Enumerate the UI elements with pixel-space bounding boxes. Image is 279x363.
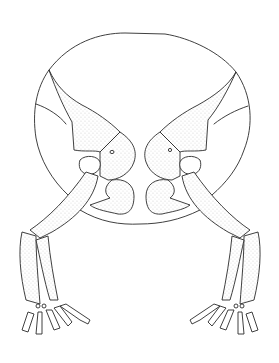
left-ilium	[49, 70, 120, 152]
right-acetabulum-foramen	[168, 148, 171, 151]
left-femur	[30, 172, 98, 238]
skeleton-illustration	[0, 0, 279, 363]
right-femur	[182, 172, 250, 238]
left-acetabulum-foramen	[110, 150, 114, 153]
right-digits	[190, 304, 258, 334]
right-femur-head	[180, 156, 201, 174]
body-outline-lower	[80, 210, 200, 224]
right-ilium	[160, 72, 236, 152]
illustration-svg	[0, 0, 279, 363]
right-ischium	[146, 180, 190, 215]
left-tarsal-1	[36, 304, 40, 308]
right-tarsal-2	[240, 304, 244, 308]
left-ilium-ridge	[36, 104, 66, 124]
left-femur-head	[79, 156, 100, 174]
left-ischium	[90, 180, 134, 215]
right-tarsal-1	[234, 304, 238, 308]
left-digits	[22, 304, 90, 334]
right-ilium-ridge	[214, 106, 248, 124]
left-tarsal-2	[42, 304, 46, 308]
body-outline	[35, 33, 251, 195]
